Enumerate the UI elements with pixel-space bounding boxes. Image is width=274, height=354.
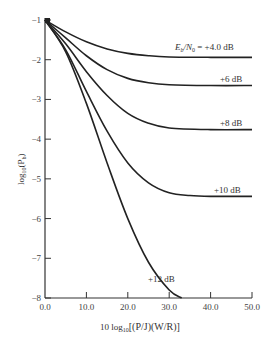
y-tick-label: −7 xyxy=(31,253,41,263)
x-axis-title: 10 log10[(P/J)(W/R)] xyxy=(100,321,180,333)
curve-label-6db: +6 dB xyxy=(220,74,242,84)
y-tick-label: −6 xyxy=(31,214,41,224)
curves xyxy=(45,18,252,298)
curve-label-10db: +10 dB xyxy=(214,185,241,195)
y-tick-label: −5 xyxy=(31,174,41,184)
y-tick-label: −2 xyxy=(31,55,41,65)
y-ticks: −1−2−3−4−5−6−7−8 xyxy=(31,15,51,303)
curve-12db xyxy=(45,20,182,298)
x-tick-label: 0.0 xyxy=(39,302,51,312)
x-tick-label: 50.0 xyxy=(244,302,260,312)
curve-label-12db: +12 dB xyxy=(148,274,175,284)
x-tick-label: 30.0 xyxy=(161,302,177,312)
x-tick-label: 10.0 xyxy=(79,302,95,312)
y-axis-title: log10(Pb) xyxy=(16,153,27,185)
y-tick-label: −4 xyxy=(31,134,41,144)
x-ticks: 0.010.020.030.040.050.0 xyxy=(39,292,260,312)
ber-chart: −1−2−3−4−5−6−7−8 0.010.020.030.040.050.0… xyxy=(0,0,274,354)
x-tick-label: 20.0 xyxy=(120,302,136,312)
curve-origin-marker xyxy=(45,18,50,23)
y-tick-label: −3 xyxy=(31,94,41,104)
axes xyxy=(45,18,252,298)
y-tick-label: −1 xyxy=(31,15,41,25)
curve-label-4db: Eb/N0 = +4.0 dB xyxy=(174,42,234,53)
curve-label-8db: +8 dB xyxy=(220,118,242,128)
x-tick-label: 40.0 xyxy=(203,302,219,312)
